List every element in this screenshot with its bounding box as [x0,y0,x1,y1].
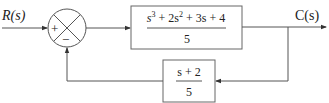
forward-block-denominator: 5 [184,32,190,46]
feedback-block-denominator: 5 [186,85,192,99]
summing-junction: + − [48,9,86,47]
feedback-transfer-block: s + 2 5 [163,60,215,102]
plus-sign: + [51,21,58,36]
block-diagram: R(s) + − s3 + 2s2 + 3s + 4 5 C(s) s + 2 … [0,0,329,103]
minus-sign: − [62,32,69,47]
forward-transfer-block: s3 + 2s2 + 3s + 4 5 [131,6,242,49]
output-label: C(s) [295,8,319,24]
feedback-return-path [67,48,163,81]
forward-block-numerator: s3 + 2s2 + 3s + 4 [147,10,225,25]
feedback-block-numerator: s + 2 [177,65,200,79]
input-label: R(s) [1,8,26,24]
